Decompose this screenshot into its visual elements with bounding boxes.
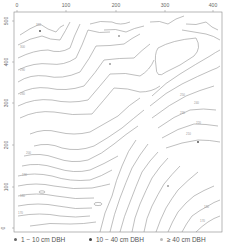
y-tick-300: 300 xyxy=(3,99,9,107)
svg-text:200: 200 xyxy=(26,151,31,155)
x-tick-300: 300 xyxy=(161,2,169,8)
y-tick-200: 200 xyxy=(3,141,9,149)
svg-text:230: 230 xyxy=(180,111,185,115)
svg-text:280: 280 xyxy=(20,92,25,96)
legend-item-medium-dbh: 10 − 40 cm DBH xyxy=(89,236,144,243)
svg-text:300: 300 xyxy=(20,45,25,49)
svg-text:190: 190 xyxy=(22,173,27,177)
contour-plot: 310300290 280250240 230220210 200190180 … xyxy=(0,0,225,250)
legend-item-large-dbh: ≥ 40 cm DBH xyxy=(160,236,206,243)
y-tick-100: 100 xyxy=(3,183,9,191)
x-tick-100: 100 xyxy=(62,2,70,8)
svg-text:250: 250 xyxy=(180,93,185,97)
legend-label: 10 − 40 cm DBH xyxy=(96,236,144,243)
x-tick-0: 0 xyxy=(16,2,19,8)
y-tick-0: 0 xyxy=(0,227,6,230)
legend-item-small-dbh: 1 − 10 cm DBH xyxy=(14,236,65,243)
y-tick-400: 400 xyxy=(3,58,9,66)
small-dot-icon xyxy=(14,238,17,241)
svg-text:240: 240 xyxy=(194,101,199,105)
svg-text:170: 170 xyxy=(200,219,205,223)
y-tick-500: 500 xyxy=(3,17,9,25)
legend-label: ≥ 40 cm DBH xyxy=(167,236,206,243)
contour-map: 310300290 280250240 230220210 200190180 … xyxy=(0,0,225,250)
x-tick-400: 400 xyxy=(209,2,217,8)
large-dot-icon xyxy=(160,238,163,241)
svg-text:170: 170 xyxy=(18,211,23,215)
svg-text:210: 210 xyxy=(186,132,191,136)
medium-dot-icon xyxy=(89,238,92,241)
x-tick-200: 200 xyxy=(112,2,120,8)
svg-text:220: 220 xyxy=(196,121,201,125)
svg-text:180: 180 xyxy=(20,194,25,198)
legend-label: 1 − 10 cm DBH xyxy=(21,236,65,243)
svg-text:310: 310 xyxy=(36,23,41,27)
legend: 1 − 10 cm DBH 10 − 40 cm DBH ≥ 40 cm DBH xyxy=(0,236,225,248)
svg-text:180: 180 xyxy=(204,205,209,209)
svg-text:290: 290 xyxy=(20,68,25,72)
